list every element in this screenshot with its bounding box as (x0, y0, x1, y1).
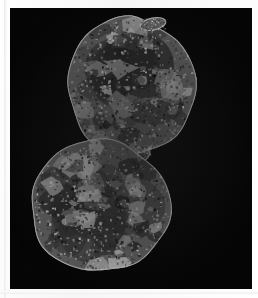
micrograph-plate (10, 8, 252, 289)
mount-edge-shadow-bottom (0, 291, 258, 294)
mount-edge-shadow-left (4, 0, 7, 298)
apical-protrusion (139, 15, 167, 32)
figure-root: Grayscale micrograph of a bilobed specim… (0, 0, 258, 298)
specimen-image (10, 8, 252, 289)
lobe-lower-lobe (32, 138, 172, 280)
